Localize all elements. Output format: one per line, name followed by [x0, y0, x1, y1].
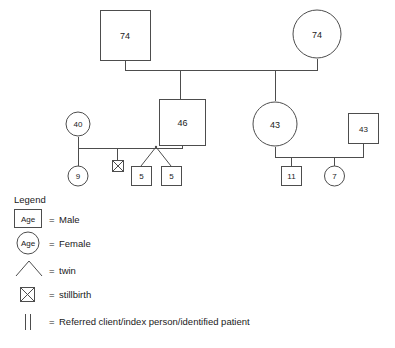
person-node-grandfather-74[interactable]: 74 [101, 11, 151, 61]
person-node-grandmother-74[interactable]: 74 [293, 10, 341, 58]
person-node-child-9[interactable]: 9 [68, 166, 88, 186]
legend-item-male: Age = Male [15, 210, 80, 228]
twin-branch-right [156, 147, 171, 166]
person-node-child-11[interactable]: 11 [282, 167, 302, 186]
genogram-canvas: 74 74 40 46 43 43 [0, 0, 395, 348]
age-label: 74 [120, 31, 130, 41]
legend-equals-sign: = [49, 289, 55, 300]
union-line-right-couple [276, 144, 364, 158]
legend-item-twin: = twin [16, 261, 76, 276]
age-label: 46 [177, 118, 187, 128]
age-label: 5 [169, 172, 174, 181]
age-label: 43 [359, 125, 368, 134]
legend-equals-sign: = [49, 238, 55, 249]
legend-description: Referred client/index person/identified … [59, 316, 250, 327]
double-bar-icon [26, 314, 31, 330]
legend-item-stillbirth: = stillbirth [21, 288, 92, 302]
age-label: 74 [312, 30, 322, 40]
age-label: 7 [332, 172, 337, 181]
union-line-grandparents [126, 59, 318, 71]
age-label: 5 [139, 172, 144, 181]
person-node-child-7[interactable]: 7 [325, 166, 345, 186]
legend-description: Male [59, 214, 80, 225]
age-label: 11 [287, 172, 296, 181]
person-node-twin-a-5[interactable]: 5 [132, 167, 152, 186]
age-label: 9 [76, 172, 81, 181]
person-node-partner-43[interactable]: 43 [349, 114, 379, 144]
person-node-daughter-43[interactable]: 43 [253, 102, 297, 146]
person-node-twin-b-5[interactable]: 5 [162, 167, 182, 186]
person-node-partner-40[interactable]: 40 [66, 112, 90, 136]
legend-description: twin [59, 265, 76, 276]
genogram-svg: 74 74 40 46 43 43 [0, 0, 395, 348]
legend-description: Female [59, 238, 91, 249]
legend-equals-sign: = [49, 214, 55, 225]
legend-equals-sign: = [49, 265, 55, 276]
legend-item-female: Age = Female [17, 232, 91, 254]
legend-equals-sign: = [49, 316, 55, 327]
legend-title: Legend [14, 194, 46, 205]
person-node-son-46[interactable]: 46 [160, 100, 206, 146]
age-label: 43 [270, 120, 280, 130]
twin-chevron-icon [16, 261, 42, 276]
twin-branch-left [141, 147, 156, 166]
legend-item-referred-client: = Referred client/index person/identifie… [26, 314, 251, 330]
age-label: 40 [74, 120, 83, 129]
person-node-stillbirth[interactable] [113, 161, 124, 172]
legend-description: stillbirth [59, 289, 91, 300]
legend-key-label: Age [21, 239, 36, 248]
legend-key-label: Age [21, 215, 36, 224]
